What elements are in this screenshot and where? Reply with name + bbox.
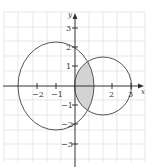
x-tick-label: 2	[109, 90, 114, 99]
x-axis-label: x	[141, 88, 145, 96]
y-axis-arrow-icon	[73, 13, 78, 19]
y-tick-label: −1	[61, 101, 73, 110]
coordinate-plane: x y −2 −1 2 3 3 2 1 −1 −2 −3	[0, 0, 149, 167]
y-tick-label: −2	[61, 120, 73, 129]
x-tick-label: −1	[51, 90, 63, 99]
x-tick-label: −2	[32, 90, 44, 99]
y-tick-label: 1	[66, 62, 71, 71]
y-tick-label: 2	[66, 43, 71, 52]
y-tick-label: −3	[61, 140, 73, 149]
y-tick-label: 3	[66, 24, 71, 33]
x-tick-label: 3	[128, 90, 133, 99]
